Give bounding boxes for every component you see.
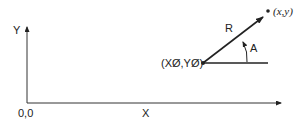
radius-vector xyxy=(203,17,263,63)
x-axis-label: X xyxy=(142,107,150,119)
radius-label: R xyxy=(225,22,233,34)
angle-arc xyxy=(243,42,247,62)
target-point-marker xyxy=(266,9,270,13)
origin-label: 0,0 xyxy=(18,107,33,119)
target-point-label: (x,y) xyxy=(273,5,293,18)
angle-label: A xyxy=(250,42,258,54)
reference-point-label: (XØ,YØ) xyxy=(161,57,203,69)
y-axis-label: Y xyxy=(13,24,21,36)
polar-coordinate-diagram: Y 0,0 X (XØ,YØ) (x,y) R A xyxy=(0,0,307,125)
